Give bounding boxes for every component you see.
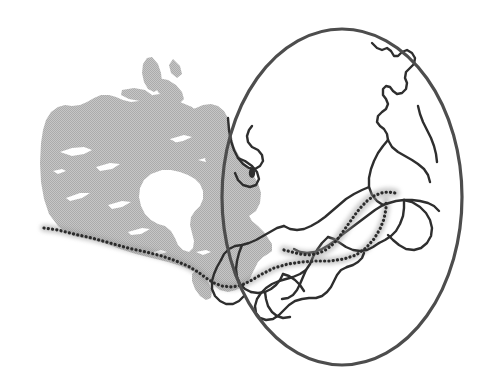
ungava-islet — [249, 168, 255, 178]
map-figure: Map of Canada with magnified inset of Ea… — [0, 0, 489, 387]
map-canvas — [0, 0, 489, 387]
